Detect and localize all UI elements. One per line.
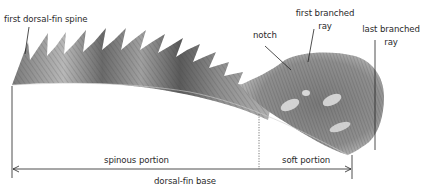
- spinous-fin-shape: [12, 28, 270, 120]
- label-last-branched-ray-line1: last branched: [360, 24, 422, 34]
- label-last-branched-ray-line2: ray: [360, 37, 422, 47]
- soft-fin-shape: [240, 53, 384, 155]
- label-first-branched-ray-line1: first branched: [295, 8, 355, 18]
- label-spinous-portion: spinous portion: [104, 155, 169, 165]
- label-dorsal-fin-base: dorsal-fin base: [154, 176, 216, 186]
- label-soft-portion: soft portion: [282, 155, 330, 165]
- label-first-branched-ray-line2: ray: [295, 21, 355, 31]
- label-first-dorsal-fin-spine: first dorsal-fin spine: [4, 14, 87, 24]
- label-notch: notch: [253, 30, 277, 40]
